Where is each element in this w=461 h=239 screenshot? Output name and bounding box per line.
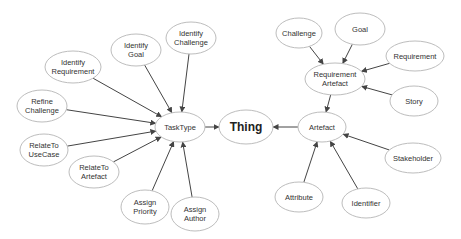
node-label: Stakeholder — [393, 154, 434, 163]
node-identify-challenge: IdentifyChallenge — [166, 22, 216, 54]
node-label: Thing — [230, 120, 263, 134]
node-label: Requirement — [394, 52, 438, 61]
node-requirement-artefact: RequirementArtefact — [305, 63, 365, 95]
node-tasktype: TaskType — [155, 112, 205, 142]
node-identify-goal: IdentifyGoal — [111, 34, 161, 66]
edge-relateto-artefact-to-tasktype — [113, 137, 161, 162]
node-refine-challenge: RefineChallenge — [17, 90, 67, 122]
edge-requirement-artefact-to-artefact — [326, 95, 331, 112]
node-label: Artefact — [322, 79, 349, 88]
concept-diagram: ThingTaskTypeArtefactIdentifyRequirement… — [0, 0, 461, 239]
node-assign-priority: AssignPriority — [121, 190, 169, 224]
node-label: Author — [184, 214, 207, 223]
node-label: Priority — [133, 207, 157, 216]
edge-identify-challenge-to-tasktype — [182, 54, 189, 112]
edge-assign-author-to-tasktype — [183, 142, 193, 197]
node-label: Challenge — [174, 38, 208, 47]
diagram-canvas: ThingTaskTypeArtefactIdentifyRequirement… — [0, 0, 461, 239]
node-challenge: Challenge — [276, 18, 322, 48]
node-label: UseCase — [29, 150, 60, 159]
node-label: Assign — [134, 198, 157, 207]
edge-attribute-to-artefact — [304, 142, 317, 183]
node-label: Goal — [128, 50, 144, 59]
node-label: Challenge — [25, 106, 59, 115]
node-label: Goal — [352, 25, 368, 34]
node-label: RelateTo — [29, 141, 59, 150]
edge-identifier-to-artefact — [330, 141, 358, 189]
node-label: Story — [405, 97, 423, 106]
node-identifier: Identifier — [342, 188, 390, 218]
edge-identify-goal-to-tasktype — [145, 65, 172, 113]
node-stakeholder: Stakeholder — [385, 143, 441, 173]
node-relateto-artefact: RelateToArtefact — [69, 156, 119, 188]
node-assign-author: AssignAuthor — [171, 197, 219, 231]
node-story: Story — [390, 86, 438, 116]
edge-challenge-to-requirement-artefact — [310, 46, 324, 64]
node-label: Attribute — [285, 193, 313, 202]
edge-refine-challenge-to-tasktype — [66, 110, 156, 124]
node-attribute: Attribute — [275, 182, 323, 212]
nodes-layer: ThingTaskTypeArtefactIdentifyRequirement… — [17, 13, 444, 231]
edge-identify-requirement-to-tasktype — [93, 78, 162, 117]
node-label: Challenge — [282, 29, 316, 38]
edge-goal-to-requirement-artefact — [343, 44, 353, 63]
node-label: Artefact — [81, 172, 108, 181]
node-label: TaskType — [164, 123, 196, 132]
node-label: Refine — [31, 97, 53, 106]
node-label: Artefact — [309, 123, 336, 132]
node-thing: Thing — [219, 110, 273, 144]
node-label: Requirement — [314, 70, 358, 79]
edge-requirement-to-requirement-artefact — [361, 63, 389, 71]
node-label: RelateTo — [79, 163, 109, 172]
edge-relateto-usecase-to-tasktype — [67, 131, 156, 146]
node-label: Requirement — [52, 67, 96, 76]
node-label: Identify — [124, 41, 148, 50]
node-label: Assign — [184, 205, 207, 214]
node-goal: Goal — [335, 13, 385, 45]
node-relateto-usecase: RelateToUseCase — [20, 134, 68, 166]
edge-assign-priority-to-tasktype — [152, 142, 174, 191]
node-requirement: Requirement — [386, 41, 444, 71]
node-identify-requirement: IdentifyRequirement — [45, 51, 101, 83]
node-label: Identify — [179, 29, 203, 38]
edge-story-to-requirement-artefact — [362, 86, 393, 95]
node-artefact: Artefact — [298, 112, 346, 142]
edge-stakeholder-to-artefact — [343, 134, 389, 150]
node-label: Identifier — [352, 199, 381, 208]
node-label: Identify — [61, 58, 85, 67]
